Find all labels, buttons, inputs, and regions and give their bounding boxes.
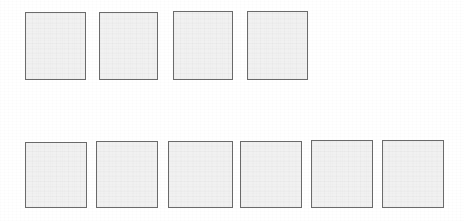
- placeholder-box: [96, 141, 158, 208]
- placeholder-box: [311, 140, 373, 208]
- placeholder-box: [240, 141, 302, 208]
- page-canvas: [0, 0, 464, 221]
- placeholder-box: [382, 140, 444, 208]
- placeholder-box: [99, 12, 158, 80]
- placeholder-box: [25, 12, 86, 80]
- placeholder-box: [25, 142, 87, 208]
- placeholder-box: [247, 11, 308, 80]
- placeholder-box: [168, 141, 233, 208]
- placeholder-box: [173, 11, 233, 80]
